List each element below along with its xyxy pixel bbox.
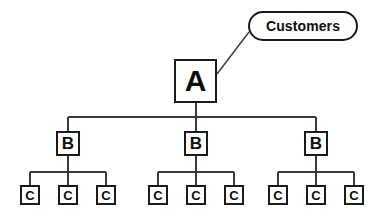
node-label: C — [153, 189, 162, 202]
node-c-3[interactable]: C — [96, 185, 116, 205]
node-label: C — [311, 189, 320, 202]
node-c-8[interactable]: C — [306, 185, 326, 205]
node-b-2[interactable]: B — [184, 131, 208, 156]
node-c-7[interactable]: C — [268, 185, 288, 205]
node-label: C — [101, 189, 110, 202]
node-c-5[interactable]: C — [186, 185, 206, 205]
node-c-1[interactable]: C — [20, 185, 40, 205]
node-c-4[interactable]: C — [148, 185, 168, 205]
node-a-1[interactable]: A — [174, 59, 217, 103]
node-label: C — [273, 189, 282, 202]
node-c-9[interactable]: C — [344, 185, 364, 205]
node-b-1[interactable]: B — [56, 131, 80, 156]
node-b-3[interactable]: B — [304, 131, 328, 156]
node-label: A — [185, 66, 207, 96]
node-label: C — [229, 189, 238, 202]
node-label: C — [349, 189, 358, 202]
hierarchy-diagram: ABBBCCCCCCCCC Customers — [0, 0, 389, 220]
callout-customers[interactable]: Customers — [248, 11, 358, 41]
node-label: B — [310, 135, 322, 152]
node-label: C — [63, 189, 72, 202]
node-c-2[interactable]: C — [58, 185, 78, 205]
node-label: C — [191, 189, 200, 202]
connector-callout-leader — [217, 32, 249, 74]
node-label: B — [190, 135, 202, 152]
node-label: C — [25, 189, 34, 202]
callout-label: Customers — [266, 18, 340, 34]
node-label: B — [62, 135, 74, 152]
node-c-6[interactable]: C — [224, 185, 244, 205]
